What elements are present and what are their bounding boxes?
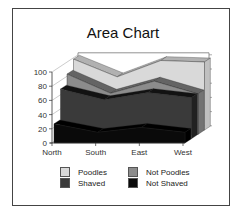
y-tick-label: 80 xyxy=(38,82,47,91)
legend-swatch xyxy=(128,167,138,177)
x-tick-label: South xyxy=(85,148,106,157)
legend-swatch xyxy=(60,167,70,177)
y-tick-label: 40 xyxy=(38,111,47,120)
series-side xyxy=(192,94,198,139)
x-tick-label: East xyxy=(131,148,148,157)
y-tick-label: 20 xyxy=(38,125,47,134)
legend-item-shaved: Shaved xyxy=(60,178,105,188)
x-tick-label: North xyxy=(42,148,62,157)
legend-item-not-shaved: Not Shaved xyxy=(128,178,188,188)
y-tick-label: 0 xyxy=(43,139,48,148)
legend-item-not-poodles: Not Poodles xyxy=(128,167,190,177)
legend-swatch xyxy=(60,178,70,188)
area-plot: 020406080100NorthSouthEastWest xyxy=(0,0,246,218)
y-tick-label: 60 xyxy=(38,96,47,105)
x-tick-label: West xyxy=(174,148,193,157)
series-side xyxy=(198,90,204,134)
series-side xyxy=(205,58,211,130)
legend-item-poodles: Poodles xyxy=(60,167,107,177)
y-tick-label: 100 xyxy=(34,68,48,77)
legend-swatch xyxy=(128,178,138,188)
